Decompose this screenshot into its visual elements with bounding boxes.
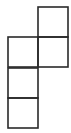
- square-lower-left: [8, 68, 38, 98]
- square-middle-right: [38, 37, 68, 67]
- square-middle-left: [8, 37, 38, 67]
- square-bottom-left: [8, 98, 38, 128]
- square-top-right: [38, 7, 68, 37]
- squares-group: [8, 7, 68, 128]
- matchstick-diagram: [0, 0, 71, 133]
